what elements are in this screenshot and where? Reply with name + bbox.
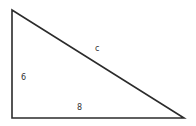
right-triangle	[12, 10, 184, 118]
vertical-leg-label: 6	[21, 74, 26, 82]
horizontal-leg-label: 8	[77, 104, 82, 112]
hypotenuse-label: c	[95, 45, 99, 53]
triangle-diagram	[0, 0, 196, 126]
